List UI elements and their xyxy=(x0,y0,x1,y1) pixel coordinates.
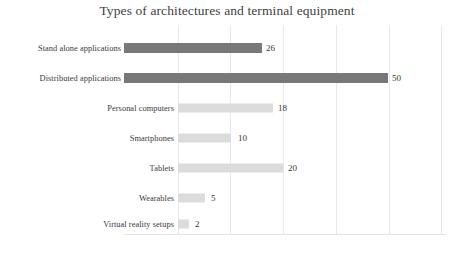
bar-category-label: Smartphones xyxy=(130,134,174,143)
bar xyxy=(124,73,388,83)
bar-category-label: Personal computers xyxy=(107,104,174,113)
bar-category-label: Tablets xyxy=(150,164,174,173)
bar xyxy=(178,134,231,143)
bar-chart: Types of architectures and terminal equi… xyxy=(0,0,454,253)
bar xyxy=(178,220,189,229)
bar-value-label: 20 xyxy=(288,163,297,173)
bar-category-label: Wearables xyxy=(139,194,174,203)
bar-row: Distributed applications50 xyxy=(0,63,454,93)
chart-title: Types of architectures and terminal equi… xyxy=(0,3,454,19)
bar-row: Smartphones10 xyxy=(0,123,454,153)
bar xyxy=(178,164,283,173)
bar-value-label: 2 xyxy=(195,219,200,229)
bar xyxy=(178,104,273,113)
bar-row: Virtual reality setups2 xyxy=(0,209,454,239)
bar-row: Tablets20 xyxy=(0,153,454,183)
bar-category-label: Stand alone applications xyxy=(38,44,121,53)
bar-row: Stand alone applications26 xyxy=(0,33,454,63)
bar-value-label: 18 xyxy=(278,103,287,113)
bar-value-label: 10 xyxy=(238,133,247,143)
bar-category-label: Virtual reality setups xyxy=(103,220,174,229)
bar-value-label: 26 xyxy=(266,43,275,53)
bar xyxy=(178,194,205,203)
bar-value-label: 50 xyxy=(392,73,401,83)
plot-area: Stand alone applications26Distributed ap… xyxy=(0,25,454,235)
bar-value-label: 5 xyxy=(211,193,216,203)
bar xyxy=(124,43,262,53)
bar-category-label: Distributed applications xyxy=(40,74,121,83)
bar-row: Personal computers18 xyxy=(0,93,454,123)
